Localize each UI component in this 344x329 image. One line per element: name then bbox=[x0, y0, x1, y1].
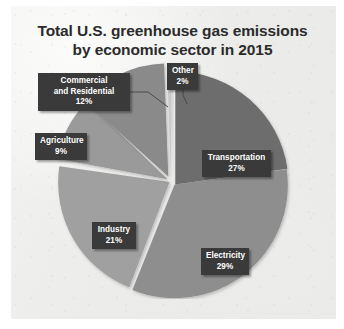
slice-label-commercial-percent: 12% bbox=[43, 97, 125, 108]
slice-label-other-percent: 2% bbox=[172, 77, 193, 88]
title-line-1: Total U.S. greenhouse gas emissions bbox=[16, 21, 329, 40]
title-line-2: by economic sector in 2015 bbox=[16, 40, 329, 59]
slice-label-electricity[interactable]: Electricity 29% bbox=[201, 248, 249, 275]
slice-label-industry[interactable]: Industry 21% bbox=[92, 222, 136, 249]
slice-label-other-name: Other bbox=[172, 66, 193, 77]
page-title: Total U.S. greenhouse gas emissions by e… bbox=[16, 21, 329, 59]
slice-label-commercial-and-residential[interactable]: Commercial and Residential 12% bbox=[38, 73, 130, 111]
slice-label-industry-name: Industry bbox=[97, 225, 131, 236]
slice-label-agriculture[interactable]: Agriculture 9% bbox=[35, 133, 87, 160]
slice-label-electricity-name: Electricity bbox=[206, 251, 244, 262]
slice-label-agriculture-percent: 9% bbox=[40, 147, 82, 158]
slice-label-industry-percent: 21% bbox=[97, 236, 131, 247]
slice-label-commercial-name-line1: Commercial bbox=[43, 76, 125, 87]
slice-label-agriculture-name: Agriculture bbox=[40, 136, 82, 147]
slice-label-transportation-name: Transportation bbox=[207, 153, 266, 164]
slice-label-transportation[interactable]: Transportation 27% bbox=[202, 150, 271, 177]
slice-label-commercial-name-line2: and Residential bbox=[43, 87, 125, 98]
slice-label-electricity-percent: 29% bbox=[206, 262, 244, 273]
chart-page: Total U.S. greenhouse gas emissions by e… bbox=[0, 0, 344, 329]
slice-label-other[interactable]: Other 2% bbox=[167, 63, 198, 90]
slice-label-transportation-percent: 27% bbox=[207, 164, 266, 175]
